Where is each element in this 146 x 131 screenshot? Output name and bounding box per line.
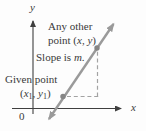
slope-label: Slope is m. [36, 51, 85, 65]
any-other-point-label-line2: point (x, y) [48, 34, 96, 48]
y-axis-label: y [30, 1, 35, 15]
any-other-point-label-line1: Any other [48, 20, 96, 34]
point-slope-figure: y x 0 Any other point (x, y) Slope is m.… [0, 0, 146, 131]
given-point-label-line1: Given point [5, 73, 57, 87]
any-other-point-label: Any other point (x, y) [48, 20, 96, 47]
given-point-label: Given point (x1, y1) [5, 73, 57, 100]
origin-label: 0 [19, 110, 25, 124]
x-axis-label: x [131, 101, 136, 115]
given-point-dot [60, 94, 65, 99]
given-point-label-line2: (x1, y1) [20, 87, 57, 101]
